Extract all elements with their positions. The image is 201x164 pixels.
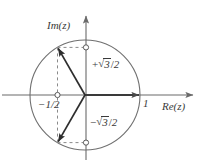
marker-minus-one-half-real bbox=[55, 92, 60, 97]
annotation-lower-denominator: 2 bbox=[112, 116, 118, 128]
sqrt-radical-lower: √3 bbox=[96, 116, 109, 129]
annotation-lower-radicand: 3 bbox=[101, 116, 109, 129]
marker-plus-root3-over-2-imaginary bbox=[83, 45, 88, 50]
annotation-upper-denominator: 2 bbox=[114, 58, 120, 70]
annotation-minus-root3-over-2: − √3/2 bbox=[90, 116, 117, 129]
vector-upper-left bbox=[58, 48, 85, 95]
imaginary-axis-label: Im(z) bbox=[47, 20, 70, 31]
marker-minus-root3-over-2-imaginary bbox=[83, 140, 88, 145]
tick-label-minus-one-half: −1/2 bbox=[38, 99, 59, 110]
radical-sign-icon: √ bbox=[98, 58, 104, 69]
annotation-upper-radicand: 3 bbox=[103, 58, 111, 71]
vector-lower-left bbox=[58, 95, 85, 142]
sqrt-radical-upper: √3 bbox=[98, 58, 111, 71]
tick-label-one: 1 bbox=[143, 98, 149, 109]
complex-plane-figure: Im(z) Re(z) 1 −1/2 + √3/2 − √3/2 bbox=[0, 0, 201, 164]
radical-sign-icon: √ bbox=[96, 116, 102, 127]
complex-plane-canvas bbox=[0, 0, 201, 164]
real-axis-label: Re(z) bbox=[162, 101, 185, 112]
annotation-plus-root3-over-2: + √3/2 bbox=[92, 58, 119, 71]
